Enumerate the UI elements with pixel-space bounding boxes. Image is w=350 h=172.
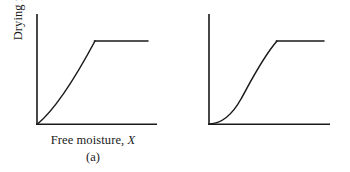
drying-rate-figure: Drying rate, R Free moisture, X (a) Dryi… <box>0 0 350 172</box>
chart-panel-a: Drying rate, R Free moisture, X (a) <box>0 0 175 172</box>
sigmoidal-rate-curve-b <box>210 41 278 124</box>
y-axis-label-a: Drying rate, R <box>9 0 27 56</box>
panel-caption-a: (a) <box>28 150 158 165</box>
x-axis-label-text-a: Free moisture, <box>51 133 128 147</box>
plot-area-b <box>175 0 350 172</box>
falling-rate-curve-a <box>38 41 96 124</box>
chart-panel-b: Drying rate, R Free moisture, X (b) <box>175 0 350 172</box>
x-axis-variable-a: X <box>128 133 136 147</box>
x-axis-label-a: Free moisture, X <box>28 133 158 148</box>
y-axis-label-text-a: Drying rate, <box>11 0 25 40</box>
